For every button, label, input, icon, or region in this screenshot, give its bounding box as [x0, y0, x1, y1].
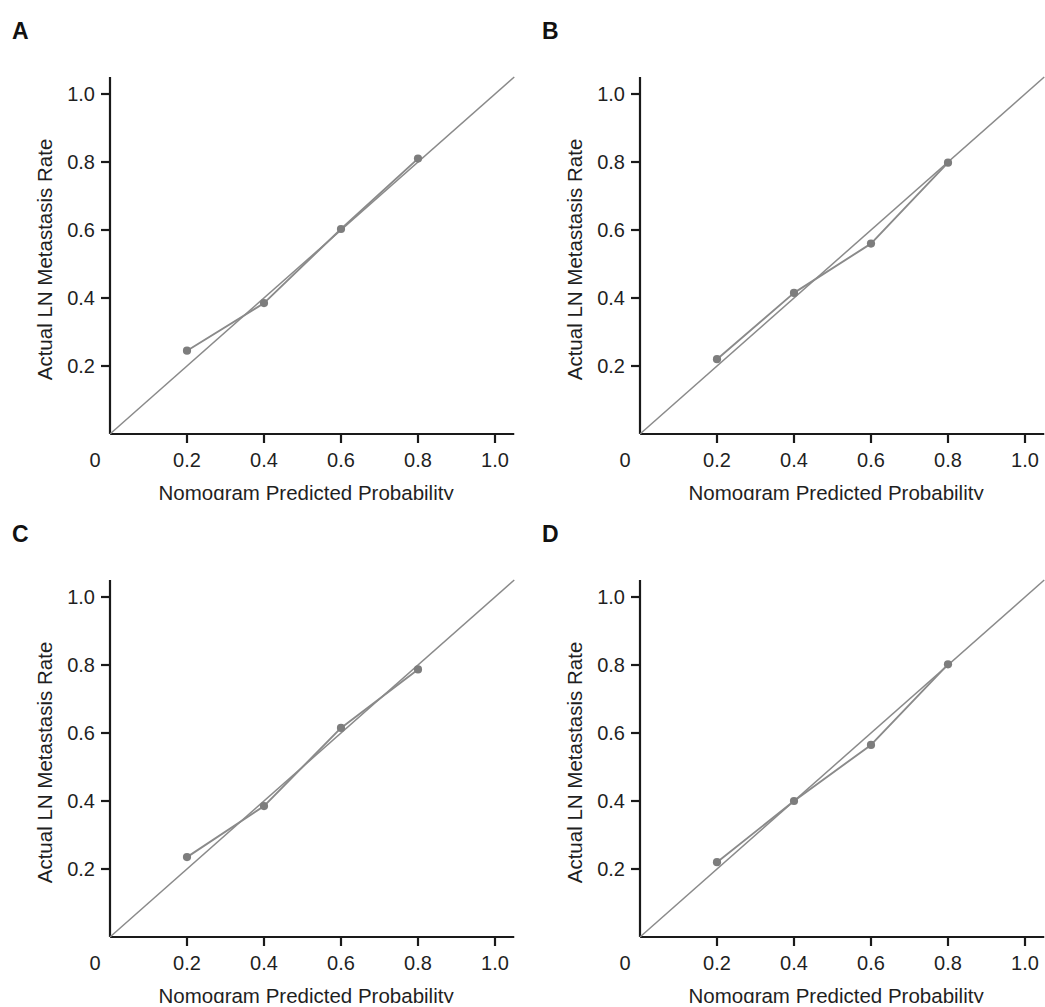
- data-point-marker: [944, 159, 952, 167]
- calibration-figure: A 0.20.40.60.81.00.20.40.60.81.00Nomogra…: [0, 0, 1045, 1007]
- panel-a: A 0.20.40.60.81.00.20.40.60.81.00Nomogra…: [0, 0, 515, 500]
- y-axis-tick-label: 0.2: [67, 858, 95, 880]
- y-axis-title: Actual LN Metastasis Rate: [33, 139, 56, 381]
- x-axis-origin-label: 0: [619, 449, 630, 471]
- y-axis-tick-label: 1.0: [67, 83, 95, 105]
- y-axis-tick-label: 0.4: [597, 790, 625, 812]
- y-axis-tick-label: 0.2: [597, 355, 625, 377]
- data-point-marker: [790, 289, 798, 297]
- y-axis-title: Actual LN Metastasis Rate: [563, 642, 586, 884]
- data-point-marker: [867, 240, 875, 248]
- calibration-plot: 0.20.40.60.81.00.20.40.60.81.00Nomogram …: [0, 503, 515, 1003]
- x-axis-tick-label: 0.2: [703, 449, 731, 471]
- calibration-curve: [187, 669, 418, 857]
- y-axis-tick-label: 1.0: [597, 586, 625, 608]
- x-axis-title: Nomogram Predicted Probability: [689, 481, 985, 500]
- x-axis-tick-label: 0.6: [327, 952, 355, 974]
- x-axis-tick-label: 0.4: [780, 952, 808, 974]
- x-axis-tick-label: 1.0: [1011, 952, 1039, 974]
- data-point-marker: [183, 347, 191, 355]
- data-point-marker: [414, 155, 422, 163]
- x-axis-tick-label: 0.8: [404, 952, 432, 974]
- y-axis-tick-label: 0.8: [597, 654, 625, 676]
- data-point-marker: [260, 299, 268, 307]
- y-axis-tick-label: 0.6: [597, 722, 625, 744]
- data-point-marker: [183, 853, 191, 861]
- x-axis-tick-label: 0.8: [934, 952, 962, 974]
- panel-b: B 0.20.40.60.81.00.20.40.60.81.00Nomogra…: [530, 0, 1045, 500]
- calibration-curve: [717, 664, 948, 862]
- y-axis-tick-label: 0.6: [597, 219, 625, 241]
- x-axis-tick-label: 1.0: [1011, 449, 1039, 471]
- x-axis-tick-label: 0.8: [934, 449, 962, 471]
- x-axis-tick-label: 0.4: [250, 449, 278, 471]
- data-point-marker: [713, 858, 721, 866]
- y-axis-title: Actual LN Metastasis Rate: [563, 139, 586, 381]
- panel-c: C 0.20.40.60.81.00.20.40.60.81.00Nomogra…: [0, 503, 515, 1003]
- x-axis-tick-label: 0.2: [173, 449, 201, 471]
- data-point-marker: [337, 724, 345, 732]
- x-axis-title: Nomogram Predicted Probability: [689, 984, 985, 1003]
- x-axis-tick-label: 1.0: [481, 952, 509, 974]
- x-axis-origin-label: 0: [89, 449, 100, 471]
- y-axis-tick-label: 0.8: [67, 151, 95, 173]
- y-axis-tick-label: 0.4: [67, 790, 95, 812]
- data-point-marker: [414, 665, 422, 673]
- x-axis-tick-label: 1.0: [481, 449, 509, 471]
- x-axis-origin-label: 0: [619, 952, 630, 974]
- calibration-plot: 0.20.40.60.81.00.20.40.60.81.00Nomogram …: [530, 503, 1045, 1003]
- y-axis-tick-label: 0.2: [67, 355, 95, 377]
- data-point-marker: [790, 797, 798, 805]
- y-axis-tick-label: 1.0: [597, 83, 625, 105]
- panel-d: D 0.20.40.60.81.00.20.40.60.81.00Nomogra…: [530, 503, 1045, 1003]
- reference-diagonal-line: [640, 580, 1044, 937]
- data-point-marker: [867, 741, 875, 749]
- x-axis-title: Nomogram Predicted Probability: [159, 984, 455, 1003]
- x-axis-title: Nomogram Predicted Probability: [159, 481, 455, 500]
- y-axis-tick-label: 0.6: [67, 219, 95, 241]
- y-axis-tick-label: 1.0: [67, 586, 95, 608]
- x-axis-tick-label: 0.4: [780, 449, 808, 471]
- x-axis-tick-label: 0.6: [327, 449, 355, 471]
- data-point-marker: [260, 802, 268, 810]
- x-axis-tick-label: 0.4: [250, 952, 278, 974]
- y-axis-tick-label: 0.8: [597, 151, 625, 173]
- x-axis-tick-label: 0.6: [857, 449, 885, 471]
- y-axis-tick-label: 0.4: [67, 287, 95, 309]
- y-axis-tick-label: 0.6: [67, 722, 95, 744]
- data-point-marker: [944, 660, 952, 668]
- y-axis-tick-label: 0.8: [67, 654, 95, 676]
- data-point-marker: [713, 355, 721, 363]
- y-axis-tick-label: 0.4: [597, 287, 625, 309]
- y-axis-tick-label: 0.2: [597, 858, 625, 880]
- x-axis-origin-label: 0: [89, 952, 100, 974]
- x-axis-tick-label: 0.8: [404, 449, 432, 471]
- y-axis-title: Actual LN Metastasis Rate: [33, 642, 56, 884]
- calibration-plot: 0.20.40.60.81.00.20.40.60.81.00Nomogram …: [530, 0, 1045, 500]
- calibration-curve: [187, 159, 418, 351]
- x-axis-tick-label: 0.6: [857, 952, 885, 974]
- calibration-plot: 0.20.40.60.81.00.20.40.60.81.00Nomogram …: [0, 0, 515, 500]
- x-axis-tick-label: 0.2: [173, 952, 201, 974]
- x-axis-tick-label: 0.2: [703, 952, 731, 974]
- data-point-marker: [337, 225, 345, 233]
- reference-diagonal-line: [640, 77, 1044, 434]
